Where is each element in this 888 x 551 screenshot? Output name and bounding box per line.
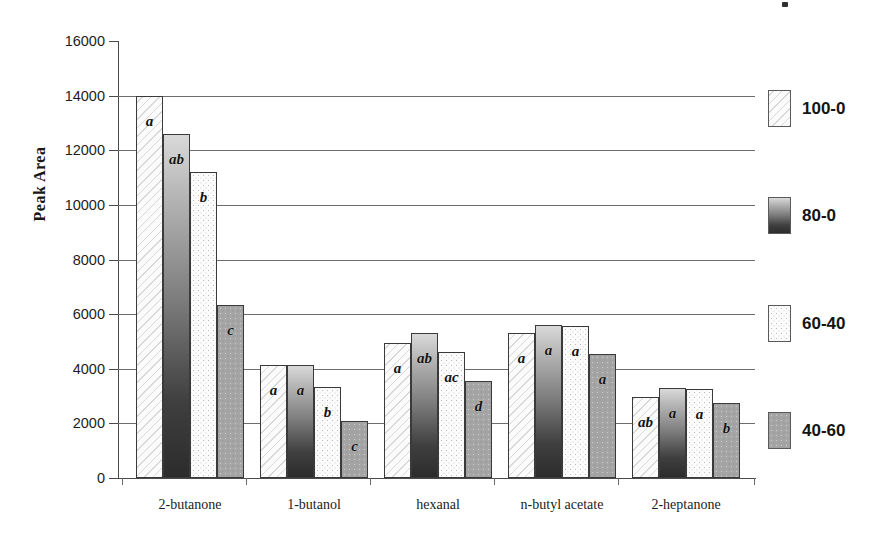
scan-artifact <box>782 2 788 7</box>
bar-group: abaab <box>632 41 740 478</box>
legend-item[interactable]: 100-0 <box>768 90 845 127</box>
x-axis-tick <box>122 478 123 485</box>
significance-letter: a <box>696 406 704 423</box>
y-axis-tick-label: 0 <box>97 470 105 486</box>
x-axis-category-label: 2-heptanone <box>651 497 720 513</box>
x-axis-tick <box>246 478 247 485</box>
y-axis-tick-label: 16000 <box>65 33 105 49</box>
y-axis-tick-label: 12000 <box>65 142 105 158</box>
significance-letter: a <box>572 343 580 360</box>
significance-letter: d <box>475 398 483 415</box>
significance-letter: a <box>518 350 526 367</box>
chart-page: Peak Area 020004000600080001000012000140… <box>0 0 888 551</box>
y-axis-tick-label: 8000 <box>73 252 105 268</box>
bar[interactable]: b <box>314 387 341 478</box>
plot-area: 0200040006000800010000120001400016000 aa… <box>118 41 755 478</box>
y-axis-tick-label: 2000 <box>73 415 105 431</box>
bar[interactable]: c <box>341 421 368 478</box>
significance-letter: a <box>297 382 305 399</box>
significance-letter: c <box>351 438 358 455</box>
legend-item[interactable]: 80-0 <box>768 197 836 234</box>
bar[interactable]: a <box>384 343 411 478</box>
legend-label: 100-0 <box>802 99 845 119</box>
bar[interactable]: b <box>190 172 217 478</box>
significance-letter: a <box>270 382 278 399</box>
bar[interactable]: ac <box>438 352 465 478</box>
significance-letter: a <box>599 371 607 388</box>
x-axis-category-label: hexanal <box>416 497 460 513</box>
bar[interactable]: ab <box>163 134 190 478</box>
legend-swatch <box>768 305 791 342</box>
significance-letter: ab <box>638 414 653 431</box>
significance-letter: a <box>394 360 402 377</box>
bar-group: aabc <box>260 41 368 478</box>
y-axis-tick-label: 14000 <box>65 88 105 104</box>
bar[interactable]: a <box>260 365 287 478</box>
bar[interactable]: a <box>136 96 163 478</box>
x-axis-category-label: 1-butanol <box>287 497 341 513</box>
y-axis-tick <box>109 260 118 261</box>
bar[interactable]: a <box>686 389 713 478</box>
y-axis-tick-label: 6000 <box>73 306 105 322</box>
significance-letter: ab <box>417 350 432 367</box>
significance-letter: b <box>200 189 208 206</box>
bar[interactable]: ab <box>411 333 438 478</box>
y-axis-tick <box>109 96 118 97</box>
bar[interactable]: d <box>465 381 492 478</box>
y-axis-tick-label: 10000 <box>65 197 105 213</box>
x-axis-category-label: n-butyl acetate <box>521 497 604 513</box>
significance-letter: a <box>669 405 677 422</box>
y-axis-tick <box>109 314 118 315</box>
legend-item[interactable]: 40-60 <box>768 412 845 449</box>
x-axis-tick <box>494 478 495 485</box>
x-axis-tick <box>618 478 619 485</box>
bar-group: aabacd <box>384 41 492 478</box>
bar-group: aaaa <box>508 41 616 478</box>
significance-letter: c <box>227 322 234 339</box>
x-axis-line <box>118 478 756 479</box>
legend-label: 60-40 <box>802 314 845 334</box>
bar[interactable]: a <box>589 354 616 478</box>
significance-letter: a <box>146 113 154 130</box>
legend-item[interactable]: 60-40 <box>768 305 845 342</box>
legend-swatch <box>768 90 791 127</box>
y-axis-tick <box>109 41 118 42</box>
bar[interactable]: a <box>535 325 562 478</box>
bar[interactable]: a <box>659 388 686 478</box>
legend-label: 40-60 <box>802 421 845 441</box>
bar[interactable]: a <box>508 333 535 478</box>
y-axis-tick <box>109 478 118 479</box>
y-axis-tick <box>109 150 118 151</box>
legend-swatch <box>768 412 791 449</box>
significance-letter: ab <box>169 151 184 168</box>
y-axis-tick <box>109 423 118 424</box>
significance-letter: b <box>723 420 731 437</box>
bar[interactable]: b <box>713 403 740 478</box>
bar[interactable]: a <box>287 365 314 478</box>
legend-swatch <box>768 197 791 234</box>
bar[interactable]: ab <box>632 397 659 478</box>
x-axis-tick <box>754 478 755 485</box>
significance-letter: b <box>324 404 332 421</box>
bar[interactable]: a <box>562 326 589 478</box>
y-axis-tick <box>109 205 118 206</box>
bar-group: aabbc <box>136 41 244 478</box>
bar[interactable]: c <box>217 305 244 478</box>
y-axis-title: Peak Area <box>31 104 49 264</box>
x-axis-category-label: 2-butanone <box>159 497 222 513</box>
x-axis-tick <box>370 478 371 485</box>
legend-label: 80-0 <box>802 206 836 226</box>
significance-letter: ac <box>444 369 458 386</box>
significance-letter: a <box>545 342 553 359</box>
y-axis-tick <box>109 369 118 370</box>
y-axis-tick-label: 4000 <box>73 361 105 377</box>
